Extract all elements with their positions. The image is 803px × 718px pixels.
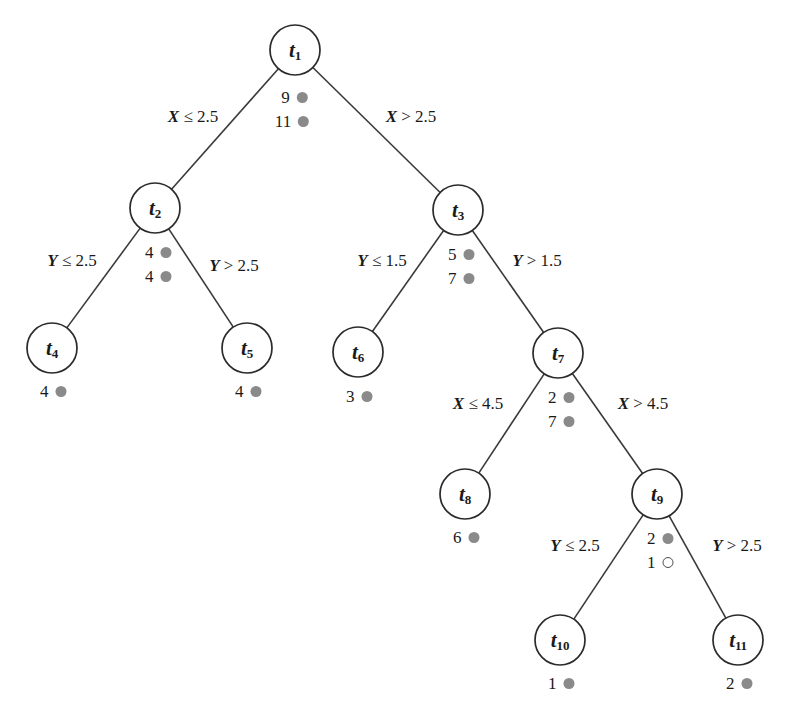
count-value: 7 (442, 270, 457, 287)
tree-edge-t7-t9 (572, 373, 642, 473)
edge-label-threshold: 2.5 (578, 536, 599, 555)
count-row: 2 (641, 529, 674, 548)
count-value: 7 (542, 413, 557, 430)
count-row: 11 (275, 112, 309, 131)
edge-label-variable: X (168, 107, 179, 126)
tree-node-label-t8: t8 (459, 484, 471, 507)
edge-label-variable: X (453, 394, 464, 413)
count-row: 3 (340, 387, 373, 406)
node-counts-t5: 4 (229, 382, 262, 401)
node-label-subscript: 2 (155, 206, 161, 221)
count-row: 9 (275, 88, 308, 107)
node-label-subscript: 1 (295, 48, 301, 63)
node-label-subscript: 11 (735, 638, 747, 653)
edge-label-threshold: 4.5 (647, 394, 668, 413)
tree-node-label-t5: t5 (241, 338, 253, 361)
edge-label-variable: Y (512, 251, 522, 270)
open-circle-marker-icon (663, 557, 674, 568)
node-counts-t6: 3 (340, 387, 373, 406)
tree-edge-t9-t10 (574, 515, 643, 619)
edge-label-threshold: 2.5 (238, 256, 259, 275)
tree-node-label-t10: t10 (551, 630, 569, 653)
count-row: 4 (139, 267, 172, 286)
edge-label-threshold: 4.5 (482, 394, 503, 413)
filled-circle-marker-icon (161, 271, 172, 282)
edge-label-t7-t9: X > 4.5 (618, 394, 669, 414)
edge-label-variable: X (618, 394, 629, 413)
edge-label-operator: > (401, 107, 411, 126)
tree-node-label-t6: t6 (352, 342, 364, 365)
tree-node-label-t3: t3 (452, 200, 464, 223)
edge-label-threshold: 2.5 (741, 536, 762, 555)
edge-label-threshold: 2.5 (197, 107, 218, 126)
node-counts-t7: 27 (542, 388, 575, 431)
edge-label-threshold: 1.5 (385, 251, 406, 270)
count-row: 4 (229, 382, 262, 401)
edge-label-operator: > (633, 394, 643, 413)
filled-circle-marker-icon (469, 532, 480, 543)
node-label-subscript: 8 (465, 492, 471, 507)
filled-circle-marker-icon (663, 533, 674, 544)
node-counts-t8: 6 (447, 528, 480, 547)
node-counts-t9: 21 (641, 529, 674, 572)
edge-label-variable: Y (209, 256, 219, 275)
count-value: 1 (542, 675, 557, 692)
node-label-subscript: 5 (247, 346, 253, 361)
filled-circle-marker-icon (298, 116, 309, 127)
node-counts-t10: 1 (542, 674, 575, 693)
count-value: 3 (340, 388, 355, 405)
decision-tree-diagram: t1911t244t357t44t54t63t727t86t921t101t11… (0, 0, 803, 718)
node-counts-t3: 57 (442, 245, 475, 288)
edge-label-variable: Y (357, 251, 367, 270)
edge-label-t1-t2: X ≤ 2.5 (168, 107, 218, 127)
node-label-subscript: 7 (558, 351, 564, 366)
count-value: 4 (139, 244, 154, 261)
node-label-subscript: 9 (657, 492, 663, 507)
filled-circle-marker-icon (564, 392, 575, 403)
count-row: 1 (542, 674, 575, 693)
tree-edge-t9-t11 (669, 516, 726, 618)
edge-label-operator: > (527, 251, 537, 270)
edge-label-t2-t5: Y > 2.5 (209, 256, 259, 276)
filled-circle-marker-icon (464, 249, 475, 260)
count-value: 2 (641, 530, 656, 547)
count-value: 1 (641, 554, 656, 571)
node-label-subscript: 3 (458, 208, 464, 223)
tree-edge-t1-t3 (313, 68, 440, 193)
edge-label-t7-t8: X ≤ 4.5 (453, 394, 503, 414)
filled-circle-marker-icon (564, 678, 575, 689)
edge-label-threshold: 2.5 (75, 251, 96, 270)
node-counts-t2: 44 (139, 243, 172, 286)
count-value: 5 (442, 246, 457, 263)
edge-label-t2-t4: Y ≤ 2.5 (47, 251, 96, 271)
tree-edge-t7-t8 (479, 374, 544, 473)
node-counts-t4: 4 (34, 382, 67, 401)
count-row: 2 (542, 388, 575, 407)
tree-edge-t3-t7 (472, 230, 543, 332)
tree-node-label-t2: t2 (149, 198, 161, 221)
tree-node-label-t7: t7 (552, 343, 564, 366)
edge-label-operator: ≤ (565, 536, 574, 555)
count-row: 4 (34, 382, 67, 401)
filled-circle-marker-icon (297, 92, 308, 103)
edge-label-operator: ≤ (468, 394, 477, 413)
filled-circle-marker-icon (362, 391, 373, 402)
count-row: 1 (641, 553, 674, 572)
tree-node-label-t11: t11 (729, 630, 747, 653)
tree-edge-t1-t2 (172, 69, 279, 190)
node-label-subscript: 6 (358, 350, 364, 365)
filled-circle-marker-icon (251, 386, 262, 397)
node-label-subscript: 4 (52, 346, 58, 361)
node-label-subscript: 10 (557, 638, 570, 653)
count-value: 4 (139, 268, 154, 285)
edge-label-threshold: 2.5 (415, 107, 436, 126)
count-value: 11 (275, 113, 291, 130)
count-row: 2 (720, 674, 753, 693)
edge-label-variable: X (386, 107, 397, 126)
tree-edge-t3-t6 (372, 230, 443, 331)
edge-label-operator: ≤ (372, 251, 381, 270)
edge-label-operator: ≤ (62, 251, 71, 270)
count-value: 6 (447, 529, 462, 546)
count-row: 7 (442, 269, 475, 288)
filled-circle-marker-icon (161, 247, 172, 258)
